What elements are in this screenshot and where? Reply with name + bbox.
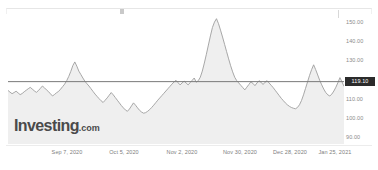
x-tick-label: Dec 28, 2020 bbox=[273, 149, 307, 155]
y-tick-label: 90.00 bbox=[346, 134, 360, 141]
bottom-divider bbox=[6, 145, 372, 146]
watermark-brand: Investing bbox=[14, 117, 79, 134]
x-tick-label: Sep 7, 2020 bbox=[52, 149, 83, 155]
x-tick-label: Oct 5, 2020 bbox=[109, 149, 139, 155]
y-tick-label: 110.00 bbox=[346, 96, 363, 103]
y-tick-label: 130.00 bbox=[346, 57, 363, 64]
y-tick-label: 140.00 bbox=[346, 38, 363, 45]
watermark-tld: .com bbox=[79, 123, 100, 133]
x-axis-labels: Sep 7, 2020 Oct 5, 2020 Nov 2, 2020 Nov … bbox=[0, 149, 378, 161]
investing-chart-widget: 150.00 140.00 130.00 110.00 100.00 90.00… bbox=[0, 0, 378, 170]
y-tick-label: 100.00 bbox=[346, 115, 363, 122]
x-tick-label: Nov 30, 2020 bbox=[223, 149, 257, 155]
x-tick-label: Jan 25, 2021 bbox=[318, 149, 351, 155]
y-tick-label: 150.00 bbox=[346, 19, 363, 26]
investing-com-watermark: Investing.com bbox=[14, 117, 100, 137]
x-tick-label: Nov 2, 2020 bbox=[167, 149, 198, 155]
last-price-badge: 119.10 bbox=[345, 77, 375, 86]
